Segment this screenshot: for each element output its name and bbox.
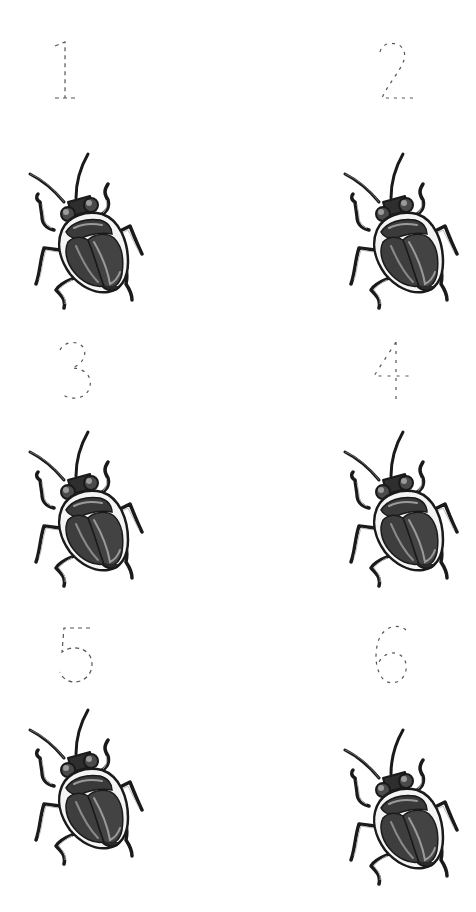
beetle-illustration-1 [24, 150, 144, 310]
beetle-illustration-4 [339, 428, 459, 588]
beetle-illustration-2 [339, 150, 459, 310]
counting-worksheet: 1 2 3 4 5 [0, 0, 476, 912]
beetle-icon [24, 706, 144, 866]
trace-numeral-1: 1 [37, 38, 97, 102]
beetle-icon [339, 428, 459, 588]
beetle-icon [24, 428, 144, 588]
trace-numeral-2: 2 [368, 38, 428, 102]
trace-numeral-4: 4 [366, 338, 426, 402]
trace-numeral-6: 6 [366, 622, 426, 686]
trace-numeral-3: 3 [50, 338, 110, 402]
beetle-illustration-5 [24, 706, 144, 866]
beetle-icon [339, 150, 459, 310]
beetle-icon [24, 150, 144, 310]
trace-numeral-5: 5 [50, 622, 110, 686]
beetle-illustration-6 [339, 726, 459, 886]
beetle-illustration-3 [24, 428, 144, 588]
beetle-icon [339, 726, 459, 886]
